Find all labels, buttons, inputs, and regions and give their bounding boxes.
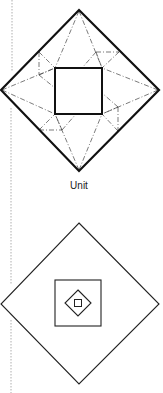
nested-outer-diamond [1, 223, 159, 384]
nested-tiny-square [75, 300, 82, 307]
nested-diagram [1, 223, 159, 384]
unit-caption: Unit [0, 180, 158, 191]
unit-outer-diamond [1, 10, 159, 171]
nested-small-diamond [65, 290, 91, 316]
unit-diagram [1, 10, 159, 171]
unit-inner-square [55, 68, 102, 114]
diagram-canvas [0, 0, 163, 393]
origami-diagram-figure: Unit [0, 0, 163, 393]
margin-guide-line [11, 0, 12, 393]
crease-lines [2, 11, 158, 170]
nested-square [55, 280, 101, 326]
